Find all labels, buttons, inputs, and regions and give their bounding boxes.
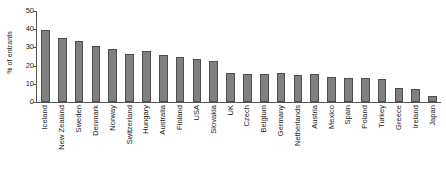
- y-tick-mark: [33, 84, 36, 85]
- bar-slot: [239, 11, 256, 102]
- x-category-label-text: Slovakia: [210, 105, 218, 134]
- bar-slot: [256, 11, 273, 102]
- bar-slot: [71, 11, 88, 102]
- bar: [58, 38, 67, 102]
- y-axis-title-text: % of entrants: [6, 31, 13, 74]
- bar-slot: [323, 11, 340, 102]
- bar-slot: [222, 11, 239, 102]
- x-axis-category-labels: IcelandNew ZealandSwedenDenmarkNorwaySwi…: [37, 105, 441, 171]
- bar-slot: [374, 11, 391, 102]
- x-category-label: Turkey: [374, 105, 391, 171]
- x-category-label-text: New Zealand: [58, 105, 66, 150]
- x-axis-line: [36, 102, 441, 103]
- bar-slot: [407, 11, 424, 102]
- x-category-label: Denmark: [88, 105, 105, 171]
- bar: [159, 55, 168, 102]
- x-category-label: New Zealand: [54, 105, 71, 171]
- bar-slot: [189, 11, 206, 102]
- x-category-label-text: Turkey: [378, 105, 386, 128]
- x-category-label-text: Ireland: [412, 105, 420, 128]
- x-category-label: Belgium: [256, 105, 273, 171]
- bar: [361, 78, 370, 102]
- x-category-label-text: Japan: [429, 105, 437, 126]
- x-category-label-text: Czech: [243, 105, 251, 127]
- x-category-label-text: Norway: [109, 105, 117, 131]
- x-category-label-text: Sweden: [75, 105, 83, 132]
- bar: [193, 59, 202, 102]
- x-category-label: Norway: [104, 105, 121, 171]
- bar: [411, 89, 420, 102]
- x-category-label: Iceland: [37, 105, 54, 171]
- x-category-label-text: Finland: [176, 105, 184, 130]
- bar: [108, 49, 117, 102]
- bar: [92, 46, 101, 102]
- x-category-label: Greece: [391, 105, 408, 171]
- bar: [125, 54, 134, 102]
- x-category-label: Japan: [424, 105, 441, 171]
- x-category-label: USA: [189, 105, 206, 171]
- x-category-label-text: Switzerland: [126, 105, 134, 144]
- bar: [310, 74, 319, 102]
- bar: [277, 73, 286, 102]
- bar-slot: [37, 11, 54, 102]
- x-category-label-text: USA: [193, 105, 201, 121]
- x-category-label: Finland: [172, 105, 189, 171]
- bar-slot: [172, 11, 189, 102]
- x-category-label: Slovakia: [205, 105, 222, 171]
- bar: [395, 88, 404, 102]
- bar: [176, 57, 185, 102]
- bar: [260, 74, 269, 102]
- bar-slot: [424, 11, 441, 102]
- x-category-label: Sweden: [71, 105, 88, 171]
- x-category-label-text: Germany: [277, 105, 285, 136]
- x-category-label-text: Netherlands: [294, 105, 302, 146]
- x-category-label: Ireland: [407, 105, 424, 171]
- bar: [41, 30, 50, 102]
- y-tick-mark: [33, 102, 36, 103]
- bar: [226, 73, 235, 102]
- bar: [327, 77, 336, 102]
- x-category-label: Australia: [155, 105, 172, 171]
- bar: [344, 78, 353, 102]
- x-category-label-text: Austria: [311, 105, 319, 129]
- y-tick-mark: [33, 29, 36, 30]
- x-category-label: Spain: [340, 105, 357, 171]
- x-category-label: Mexico: [323, 105, 340, 171]
- bar-slot: [205, 11, 222, 102]
- bar-slot: [88, 11, 105, 102]
- bar-slot: [121, 11, 138, 102]
- x-category-label-text: Belgium: [260, 105, 268, 132]
- x-category-label: Poland: [357, 105, 374, 171]
- bar-chart-figure: % of entrants 01020304050 IcelandNew Zea…: [0, 0, 446, 171]
- bar: [378, 79, 387, 102]
- x-category-label-text: Iceland: [41, 105, 49, 130]
- bar-slot: [54, 11, 71, 102]
- y-tick-mark: [33, 47, 36, 48]
- x-category-label-text: Greece: [395, 105, 403, 130]
- x-category-label: Hungary: [138, 105, 155, 171]
- bar-slot: [290, 11, 307, 102]
- x-category-label-text: UK: [227, 105, 235, 116]
- x-category-label: Germany: [273, 105, 290, 171]
- y-tick-mark: [33, 11, 36, 12]
- bar-slot: [155, 11, 172, 102]
- x-category-label: Netherlands: [290, 105, 307, 171]
- bar-slot: [273, 11, 290, 102]
- bar-slot: [138, 11, 155, 102]
- bar-slot: [306, 11, 323, 102]
- x-category-label-text: Poland: [361, 105, 369, 129]
- x-category-label: Austria: [306, 105, 323, 171]
- x-category-label-text: Australia: [159, 105, 167, 135]
- bar: [142, 51, 151, 102]
- bar-slot: [340, 11, 357, 102]
- x-category-label-text: Denmark: [92, 105, 100, 136]
- bar-slot: [104, 11, 121, 102]
- y-axis-tick-labels: 01020304050: [16, 0, 34, 112]
- x-category-label: Czech: [239, 105, 256, 171]
- bar: [75, 41, 84, 102]
- bar-slot: [357, 11, 374, 102]
- y-tick-mark: [33, 66, 36, 67]
- bar: [209, 61, 218, 102]
- plot-area: [37, 11, 441, 102]
- x-category-label-text: Hungary: [142, 105, 150, 134]
